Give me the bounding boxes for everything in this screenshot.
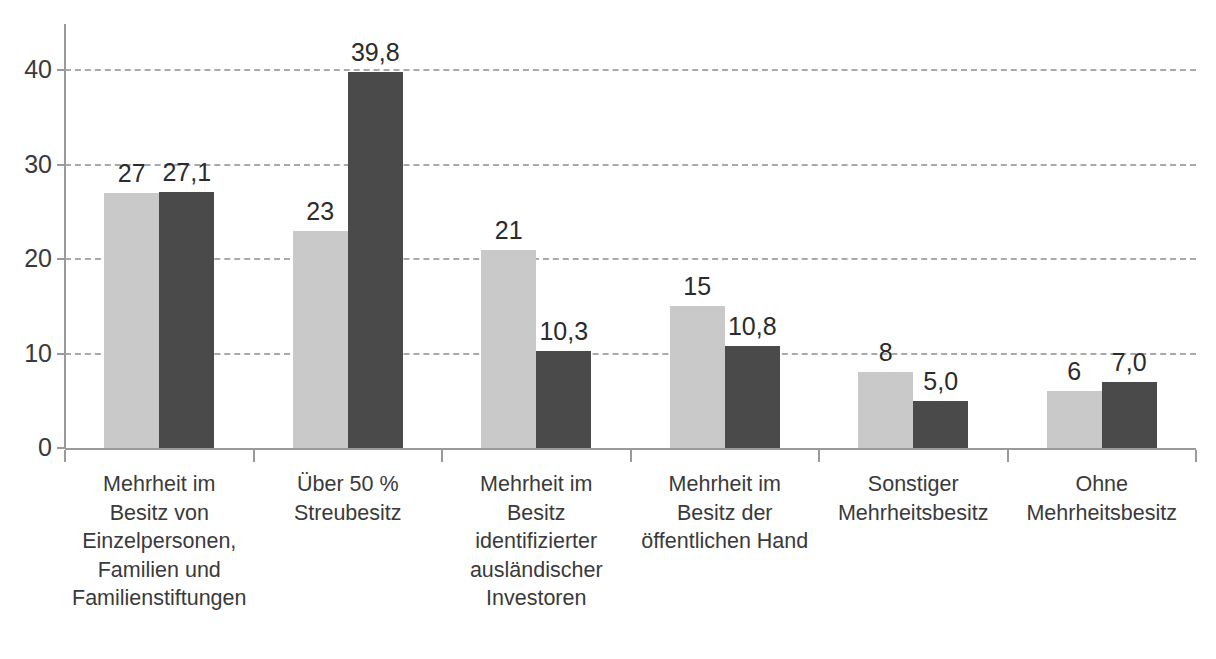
y-tick-mark-10 — [57, 353, 66, 355]
bar-series1-cat4 — [670, 306, 725, 448]
category-label-line: Ohne — [999, 470, 1204, 499]
caption-sliver — [0, 648, 1216, 659]
bar-series2-cat1 — [159, 192, 214, 448]
bar-value-label-series1-cat4: 15 — [683, 274, 711, 299]
y-tick-label-10: 10 — [24, 341, 52, 366]
bar-series2-cat4 — [725, 346, 780, 448]
category-label-line: Mehrheit im — [622, 470, 827, 499]
category-label-5: SonstigerMehrheitsbesitz — [811, 470, 1016, 527]
bar-series2-cat5 — [913, 401, 968, 448]
bar-value-label-series2-cat3: 10,3 — [539, 319, 588, 344]
x-tick-mark-4 — [818, 450, 820, 462]
category-label-line: Sonstiger — [811, 470, 1016, 499]
gridline-20 — [65, 258, 1196, 260]
category-label-2: Über 50 %Streubesitz — [245, 470, 450, 527]
bar-series1-cat2 — [293, 231, 348, 448]
category-label-line: Besitz der — [622, 499, 827, 528]
bar-series2-cat2 — [348, 72, 403, 448]
category-label-line: Über 50 % — [245, 470, 450, 499]
bar-value-label-series2-cat1: 27,1 — [162, 160, 211, 185]
bar-value-label-series1-cat6: 6 — [1067, 359, 1081, 384]
gridline-40 — [65, 69, 1196, 71]
x-tick-mark-5 — [1007, 450, 1009, 462]
bar-value-label-series2-cat6: 7,0 — [1112, 350, 1147, 375]
x-tick-mark-1 — [253, 450, 255, 462]
category-label-line: Mehrheitsbesitz — [811, 499, 1016, 528]
category-label-line: Familienstiftungen — [57, 584, 262, 613]
y-tick-label-40: 40 — [24, 57, 52, 82]
category-label-line: Einzelpersonen, — [57, 527, 262, 556]
y-tick-label-0: 0 — [38, 435, 52, 460]
category-label-line: Familien und — [57, 556, 262, 585]
category-label-line: ausländischer — [434, 556, 639, 585]
bar-value-label-series1-cat3: 21 — [495, 218, 523, 243]
x-tick-mark-6 — [1195, 450, 1197, 462]
gridline-10 — [65, 353, 1196, 355]
category-label-6: OhneMehrheitsbesitz — [999, 470, 1204, 527]
category-label-line: Investoren — [434, 584, 639, 613]
category-label-line: Mehrheitsbesitz — [999, 499, 1204, 528]
bar-series1-cat6 — [1047, 391, 1102, 448]
bar-chart: 010203040 2727,12339,82110,31510,885,067… — [0, 0, 1216, 659]
y-tick-label-20: 20 — [24, 246, 52, 271]
y-tick-mark-40 — [57, 69, 66, 71]
y-tick-mark-30 — [57, 164, 66, 166]
x-tick-mark-2 — [441, 450, 443, 462]
bar-value-label-series1-cat2: 23 — [306, 199, 334, 224]
bar-series1-cat3 — [481, 250, 536, 448]
category-label-line: Streubesitz — [245, 499, 450, 528]
category-label-line: Besitz — [434, 499, 639, 528]
bar-series2-cat6 — [1102, 382, 1157, 448]
bar-value-label-series1-cat1: 27 — [118, 161, 146, 186]
bar-value-label-series2-cat2: 39,8 — [351, 40, 400, 65]
bar-value-label-series2-cat4: 10,8 — [728, 314, 777, 339]
y-axis-line — [64, 24, 66, 449]
y-tick-mark-20 — [57, 258, 66, 260]
bar-value-label-series1-cat5: 8 — [879, 340, 893, 365]
y-tick-label-30: 30 — [24, 152, 52, 177]
x-tick-mark-0 — [64, 450, 66, 462]
bar-series1-cat1 — [104, 193, 159, 448]
bar-series1-cat5 — [858, 372, 913, 448]
category-label-4: Mehrheit imBesitz deröffentlichen Hand — [622, 470, 827, 556]
bar-value-label-series2-cat5: 5,0 — [923, 369, 958, 394]
bar-series2-cat3 — [536, 351, 591, 448]
category-label-1: Mehrheit imBesitz vonEinzelpersonen,Fami… — [57, 470, 262, 613]
y-tick-mark-0 — [57, 447, 66, 449]
category-label-3: Mehrheit imBesitzidentifizierterausländi… — [434, 470, 639, 613]
category-label-line: öffentlichen Hand — [622, 527, 827, 556]
x-tick-mark-3 — [630, 450, 632, 462]
category-label-line: Mehrheit im — [57, 470, 262, 499]
category-label-line: Besitz von — [57, 499, 262, 528]
category-label-line: identifizierter — [434, 527, 639, 556]
category-label-line: Mehrheit im — [434, 470, 639, 499]
gridline-30 — [65, 164, 1196, 166]
